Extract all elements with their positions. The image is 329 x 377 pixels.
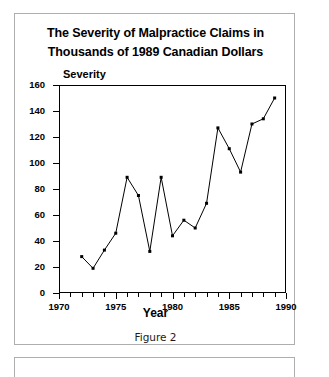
y-axis-tick-label: 160	[5, 79, 45, 90]
plot-area	[59, 85, 286, 293]
x-axis-tick-minor	[263, 293, 264, 297]
x-axis-tick-major	[229, 293, 230, 299]
x-axis-tick-minor	[150, 293, 151, 297]
y-axis-tick-label: 100	[5, 157, 45, 168]
figure-caption: Figure 2	[15, 331, 296, 343]
y-axis-tick-label: 120	[5, 131, 45, 142]
x-axis-tick-minor	[127, 293, 128, 297]
x-axis-tick-minor	[138, 293, 139, 297]
x-axis-tick-major	[173, 293, 174, 299]
x-axis-tick-minor	[207, 293, 208, 297]
x-axis-tick-minor	[252, 293, 253, 297]
x-axis-tick-minor	[218, 293, 219, 297]
y-axis-tick-label: 140	[5, 105, 45, 116]
chart-title-line-1: The Severity of Malpractice Claims in	[15, 24, 296, 43]
y-axis-tick-label: 0	[5, 287, 45, 298]
x-axis-tick-minor	[93, 293, 94, 297]
y-axis-tick-label: 60	[5, 209, 45, 220]
x-axis-tick-major	[59, 293, 60, 299]
x-axis-tick-minor	[70, 293, 71, 297]
figure-card: The Severity of Malpractice Claims in Th…	[14, 13, 295, 345]
x-axis-tick-major	[286, 293, 287, 299]
y-axis-tick-label: 40	[5, 235, 45, 246]
x-axis-title: Year	[15, 306, 296, 320]
x-axis-tick-minor	[195, 293, 196, 297]
y-axis-title: Severity	[63, 68, 106, 80]
chart-title-line-2: Thousands of 1989 Canadian Dollars	[15, 43, 296, 62]
x-axis-tick-minor	[275, 293, 276, 297]
x-axis-tick-minor	[241, 293, 242, 297]
y-axis-tick-label: 20	[5, 261, 45, 272]
page-bottom-frame	[14, 357, 295, 377]
x-axis-tick-minor	[104, 293, 105, 297]
x-axis-tick-minor	[82, 293, 83, 297]
chart-title: The Severity of Malpractice Claims in Th…	[15, 24, 296, 62]
x-axis-tick-minor	[184, 293, 185, 297]
x-axis-tick-minor	[161, 293, 162, 297]
x-axis-tick-major	[116, 293, 117, 299]
y-axis-tick-label: 80	[5, 183, 45, 194]
